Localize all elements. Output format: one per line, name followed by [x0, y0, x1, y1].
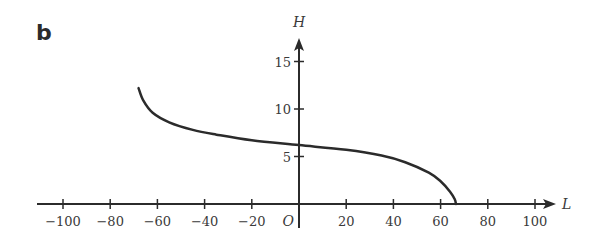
chart: −100−80−60−40−202040608010051015LHO [0, 0, 595, 246]
x-tick-label: 40 [385, 214, 402, 229]
x-tick-label: −80 [96, 214, 123, 229]
x-tick-label: −40 [191, 214, 218, 229]
x-tick-label: 60 [432, 214, 449, 229]
x-tick-label: 80 [480, 214, 497, 229]
x-tick-label: 100 [523, 214, 548, 229]
y-tick-label: 15 [274, 55, 291, 70]
y-tick-label: 10 [274, 102, 291, 117]
y-tick-label: 5 [283, 150, 291, 165]
y-axis-label: H [292, 14, 306, 30]
x-tick-label: −100 [45, 214, 81, 229]
x-tick-label: 20 [338, 214, 355, 229]
origin-label: O [283, 213, 295, 229]
x-tick-label: −20 [238, 214, 265, 229]
x-axis-label: L [561, 196, 571, 212]
data-curve [139, 88, 456, 204]
x-tick-label: −60 [144, 214, 171, 229]
